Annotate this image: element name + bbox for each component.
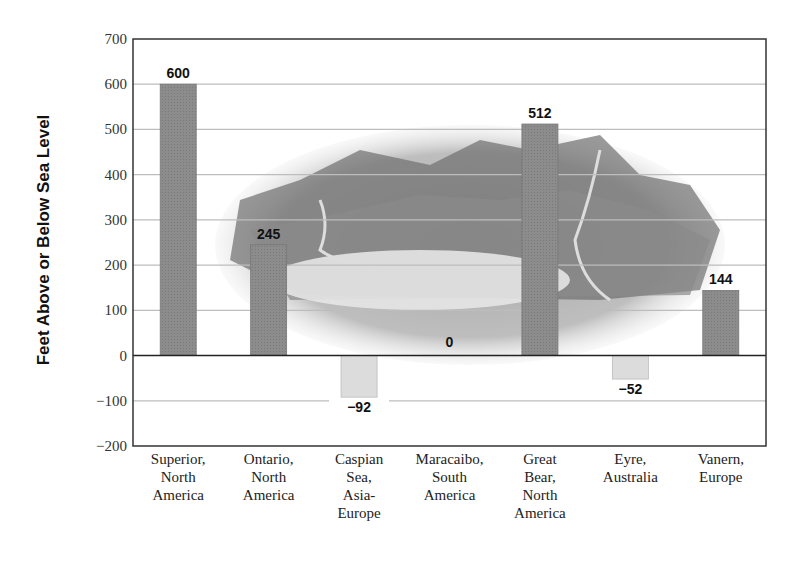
- y-tick-label: 300: [67, 211, 127, 228]
- bar: [341, 356, 377, 398]
- y-tick-label: 600: [67, 76, 127, 93]
- bar-value-label: −92: [329, 399, 389, 415]
- bar-value-label: −52: [600, 381, 660, 397]
- bar-chart: Feet Above or Below Sea Level 7006005004…: [0, 0, 806, 574]
- x-category-label: Great Bear, North America: [492, 450, 588, 522]
- y-tick-label: 200: [67, 257, 127, 274]
- bar-value-label: 0: [420, 334, 480, 350]
- x-category-label: Ontario, North America: [221, 450, 317, 504]
- bar: [703, 290, 739, 355]
- bar-value-label: 245: [239, 226, 299, 242]
- bar: [160, 84, 196, 355]
- bar-value-label: 600: [148, 65, 208, 81]
- x-category-label: Vanern, Europe: [673, 450, 769, 486]
- x-category-label: Superior, North America: [130, 450, 226, 504]
- y-tick-label: 400: [67, 166, 127, 183]
- y-tick-label: −100: [67, 392, 127, 409]
- x-category-label: Eyre, Australia: [582, 450, 678, 486]
- bar: [522, 124, 558, 356]
- bar: [251, 245, 287, 356]
- y-tick-label: 500: [67, 121, 127, 138]
- x-category-label: Caspian Sea, Asia- Europe: [311, 450, 407, 522]
- bar-value-label: 512: [510, 105, 570, 121]
- y-tick-label: −200: [67, 438, 127, 455]
- y-tick-label: 700: [67, 31, 127, 48]
- y-axis-label-text: Feet Above or Below Sea Level: [34, 115, 54, 366]
- bar: [612, 356, 648, 380]
- bar-value-label: 144: [691, 271, 751, 287]
- y-tick-label: 0: [67, 347, 127, 364]
- y-tick-label: 100: [67, 302, 127, 319]
- mountain-illustration: [215, 125, 725, 365]
- x-category-label: Maracaibo, South America: [402, 450, 498, 504]
